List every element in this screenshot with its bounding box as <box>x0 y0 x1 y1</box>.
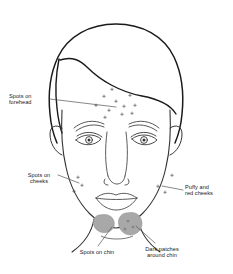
right-eye-pupil <box>143 139 146 142</box>
chin-patch-right <box>118 212 142 235</box>
nose-bridge-right <box>125 132 127 176</box>
spot <box>121 113 124 116</box>
spot <box>134 104 137 107</box>
nose-tip <box>108 176 125 184</box>
leader-forehead <box>50 99 116 107</box>
leader-dark <box>136 226 155 243</box>
right-nostril <box>125 179 129 185</box>
eyebrow-group <box>74 121 159 131</box>
chin-dark-patches <box>93 212 142 235</box>
hair-outline <box>49 24 182 143</box>
right-eyebrow-inner <box>129 125 157 131</box>
lip-line <box>96 198 137 200</box>
label-spots-on-cheeks: Spots on cheeks <box>17 172 61 185</box>
neck-left <box>72 219 94 252</box>
label-dark-patches-around-chin: Dark patches around chin <box>134 246 190 259</box>
left-cheek-spots <box>73 176 84 193</box>
chin-patch-left <box>93 214 114 232</box>
spot <box>115 100 118 103</box>
hair-outline-group <box>49 24 182 143</box>
spot <box>111 88 114 91</box>
leader-lines <box>50 99 183 246</box>
spot <box>171 174 174 177</box>
left-eyebrow <box>74 121 104 128</box>
nose-bridge-left <box>106 132 108 176</box>
left-eyebrow-inner <box>76 125 104 131</box>
spot <box>123 105 126 108</box>
spot <box>77 176 80 179</box>
chin-crease <box>101 236 133 239</box>
spot <box>103 95 106 98</box>
label-puffy-and-red-cheeks: Puffy and red cheeks <box>185 184 233 197</box>
label-spots-on-forehead: Spots on forehead <box>9 93 51 106</box>
spot <box>108 109 111 112</box>
left-eye-pupil <box>88 139 91 142</box>
mouth-group <box>96 193 137 210</box>
spot <box>129 94 132 97</box>
spot <box>164 191 167 194</box>
upper-lip <box>96 193 137 198</box>
spot <box>104 116 107 119</box>
right-cheek-spots <box>157 174 174 194</box>
spot <box>81 184 84 187</box>
facial-skin-diagram: Spots on forehead Spots on cheeks Puffy … <box>0 0 233 274</box>
ear-group <box>50 126 182 155</box>
hair-fringe-line <box>56 58 176 133</box>
face-illustration <box>0 0 233 274</box>
spot <box>131 112 134 115</box>
label-spots-on-chin: Spots on chin <box>66 249 128 255</box>
leader-puffy <box>162 186 183 190</box>
spot <box>157 185 160 188</box>
left-nostril <box>104 179 108 185</box>
eye-group <box>76 132 157 144</box>
right-eyebrow <box>129 121 159 128</box>
nose-group <box>104 132 129 185</box>
